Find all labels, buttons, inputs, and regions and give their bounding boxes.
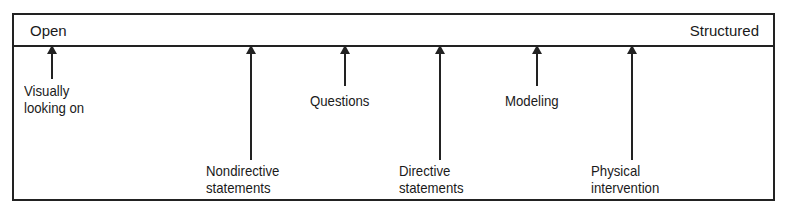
continuum-item-label: Physical intervention <box>591 162 659 196</box>
continuum-item-label: Nondirective statements <box>206 162 279 196</box>
up-arrow-icon <box>51 46 53 79</box>
open-end-label: Open <box>30 22 67 39</box>
up-arrow-icon <box>344 46 346 86</box>
structured-end-label: Structured <box>690 22 759 39</box>
up-arrow-icon <box>250 46 252 160</box>
continuum-item-label: Visually looking on <box>24 82 84 116</box>
continuum-item-label: Modeling <box>505 92 559 109</box>
continuum-item-label: Directive statements <box>399 162 464 196</box>
continuum-frame: Open Structured <box>12 13 775 201</box>
continuum-scale-bar: Open Structured <box>14 15 773 47</box>
up-arrow-icon <box>536 46 538 86</box>
up-arrow-icon <box>631 46 633 160</box>
continuum-item-label: Questions <box>310 92 369 109</box>
up-arrow-icon <box>439 46 441 160</box>
